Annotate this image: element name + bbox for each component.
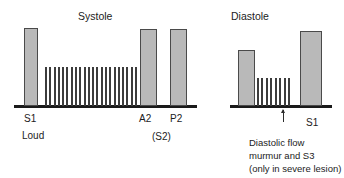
diastolic-murmur-spikes bbox=[257, 78, 290, 106]
murmur-spike bbox=[288, 78, 290, 106]
phase-label-systole: Systole bbox=[78, 10, 112, 23]
murmur-spike bbox=[284, 78, 286, 106]
label-a2: A2 bbox=[139, 113, 151, 126]
bar-p2 bbox=[170, 29, 187, 106]
label-s1-loud: Loud bbox=[22, 130, 44, 143]
bar-s1-last bbox=[300, 31, 322, 106]
murmur-spike bbox=[88, 67, 90, 106]
murmur-spike bbox=[96, 67, 98, 106]
phonocardiogram-diagram: Systole Diastole S1 Loud A2 P2 (S2) S1 D… bbox=[0, 0, 344, 178]
arrow-up-icon bbox=[283, 110, 284, 122]
murmur-spike bbox=[114, 67, 116, 106]
murmur-spike bbox=[126, 67, 128, 106]
murmur-spike bbox=[101, 67, 103, 106]
murmur-spike bbox=[92, 67, 94, 106]
murmur-spike bbox=[66, 67, 68, 106]
label-s1-first: S1 bbox=[24, 113, 36, 126]
bar-s2-next-cycle bbox=[238, 50, 255, 106]
murmur-spike bbox=[270, 78, 272, 106]
murmur-spike bbox=[131, 67, 133, 106]
murmur-spike bbox=[261, 78, 263, 106]
murmur-spike bbox=[275, 78, 277, 106]
murmur-spike bbox=[118, 67, 120, 106]
murmur-spike bbox=[109, 67, 111, 106]
murmur-spike bbox=[49, 67, 51, 106]
murmur-spike bbox=[266, 78, 268, 106]
bar-s1-first bbox=[24, 28, 38, 106]
label-s1-last: S1 bbox=[306, 117, 318, 130]
murmur-spike bbox=[257, 78, 259, 106]
murmur-spike bbox=[122, 67, 124, 106]
murmur-spike bbox=[84, 67, 86, 106]
systolic-murmur-spikes bbox=[45, 67, 137, 106]
murmur-spike bbox=[62, 67, 64, 106]
murmur-spike bbox=[71, 67, 73, 106]
murmur-spike bbox=[58, 67, 60, 106]
annotation-diastolic-flow-line1: Diastolic flow bbox=[249, 136, 304, 149]
murmur-spike bbox=[279, 78, 281, 106]
phase-label-diastole: Diastole bbox=[231, 10, 269, 23]
murmur-spike bbox=[79, 67, 81, 106]
bar-a2 bbox=[140, 29, 157, 106]
annotation-diastolic-flow-line3: (only in severe lesion) bbox=[249, 162, 341, 175]
label-p2: P2 bbox=[170, 113, 182, 126]
murmur-spike bbox=[105, 67, 107, 106]
annotation-diastolic-flow-line2: murmur and S3 bbox=[249, 149, 314, 162]
murmur-spike bbox=[54, 67, 56, 106]
label-s2-group: (S2) bbox=[152, 131, 171, 144]
murmur-spike bbox=[45, 67, 47, 106]
murmur-spike bbox=[135, 67, 137, 106]
murmur-spike bbox=[75, 67, 77, 106]
